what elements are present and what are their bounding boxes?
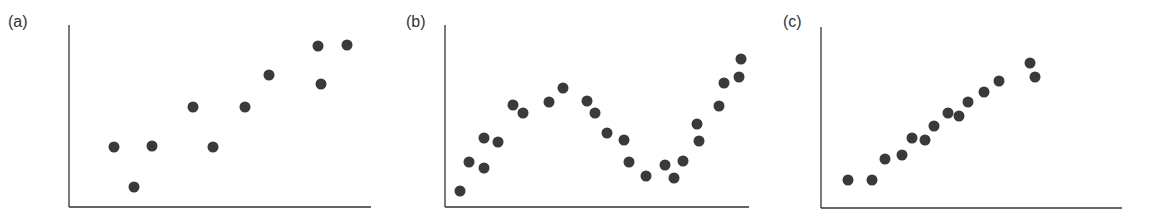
data-point [464,157,475,168]
data-point [558,83,569,94]
data-point [264,70,275,81]
data-point [624,157,635,168]
data-point [734,72,745,83]
data-point [843,175,854,186]
data-point [208,142,219,153]
data-point [493,137,504,148]
scatter-panel-b [445,25,749,207]
data-point [316,79,327,90]
data-point [678,156,689,167]
data-point [602,128,613,139]
data-point [979,87,990,98]
data-point [943,108,954,119]
data-point [508,100,519,111]
data-point [994,76,1005,87]
data-point [867,175,878,186]
data-point [129,182,140,193]
data-point [954,111,965,122]
data-point [920,135,931,146]
data-point [641,171,652,182]
data-point [1030,72,1041,83]
data-point [692,119,703,130]
data-point [455,186,466,197]
data-point [660,160,671,171]
data-point [147,141,158,152]
data-point [907,133,918,144]
data-point [188,102,199,113]
data-point [518,108,529,119]
data-point [929,121,940,132]
data-point [544,97,555,108]
data-point [736,54,747,65]
data-point [714,101,725,112]
data-point [109,142,120,153]
data-point [590,108,601,119]
scatter-panel-a [69,25,371,207]
data-point [313,41,324,52]
data-point [719,78,730,89]
scatter-plots [0,0,1150,219]
data-point [619,135,630,146]
data-point [479,133,490,144]
data-point [342,40,353,51]
data-point [694,136,705,147]
data-point [669,173,680,184]
data-point [240,102,251,113]
data-point [479,163,490,174]
scatter-panel-c [821,27,1122,208]
data-point [897,150,908,161]
data-point [880,154,891,165]
data-point [582,96,593,107]
data-point [963,97,974,108]
data-point [1025,58,1036,69]
